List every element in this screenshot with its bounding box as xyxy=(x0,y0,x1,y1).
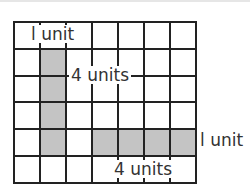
top-border xyxy=(0,0,250,2)
grid-line xyxy=(91,22,93,184)
horizontal-width-label: l unit xyxy=(200,131,243,149)
unit-grid: l unit 4 units 4 units xyxy=(14,22,196,183)
vertical-length-label: 4 units xyxy=(69,66,131,84)
grid-line xyxy=(65,22,67,184)
grid-line xyxy=(13,128,197,130)
grid-line xyxy=(13,22,15,184)
grid-line xyxy=(13,155,197,157)
grid-line xyxy=(13,48,197,50)
grid-line xyxy=(195,22,197,184)
horizontal-length-label: 4 units xyxy=(112,160,174,178)
grid-line xyxy=(13,101,197,103)
grid-line xyxy=(39,22,41,184)
grid-line xyxy=(13,182,197,184)
vertical-width-label: l unit xyxy=(30,25,75,43)
grid-line xyxy=(13,21,197,23)
